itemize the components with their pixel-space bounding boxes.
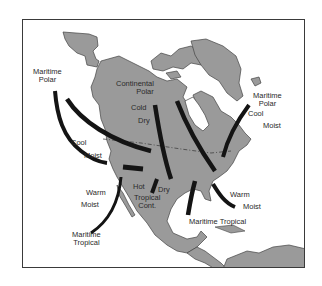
south-america-landmass [223, 245, 305, 268]
label-warm-west: Warm [86, 189, 106, 197]
label-dry-north: Dry [138, 117, 150, 125]
greenland-landmass [191, 39, 243, 101]
label-cold: Cold [131, 104, 146, 112]
label-cool-east: Cool [248, 110, 263, 118]
label-moist-southwest: Moist [81, 201, 99, 209]
arctic-island-small [166, 71, 181, 79]
iceland [251, 77, 261, 86]
label-warm-east: Warm [230, 191, 250, 199]
label-moist-southeast: Moist [243, 203, 261, 211]
label-maritime-polar-west: Maritime Polar [33, 68, 62, 84]
arrow-maritime-polar-west-lower [123, 167, 143, 169]
label-moist-east: Moist [263, 122, 281, 130]
label-continental-tropical: Tropical Cont. [134, 194, 160, 210]
north-america-map [23, 20, 305, 268]
label-maritime-tropical-pacific: Maritime Tropical [72, 231, 101, 247]
cuba [215, 225, 245, 233]
label-moist-west: Moist [84, 152, 102, 160]
label-cool-west: Cool [71, 139, 86, 147]
central-america-landmass [187, 247, 227, 268]
label-hot: Hot [133, 183, 145, 191]
label-maritime-tropical-gulf: Maritime Tropical [189, 218, 246, 226]
label-maritime-polar-east: Maritime Polar [253, 92, 282, 108]
alaska-landmass [63, 32, 99, 67]
map-frame [22, 19, 305, 268]
label-continental-polar: Continental Polar [116, 80, 154, 96]
